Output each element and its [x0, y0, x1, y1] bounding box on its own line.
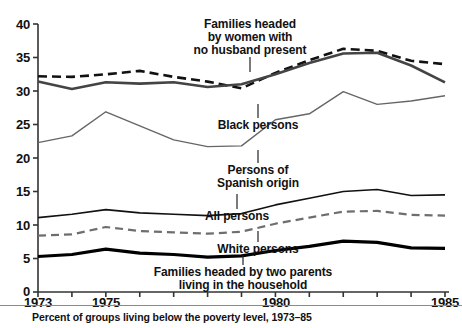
annotation-white-persons: White persons — [198, 243, 318, 256]
x-tick-label-1973: 1973 — [16, 296, 60, 309]
annotation-all-persons: All persons — [180, 210, 294, 223]
y-tick-label-20: 20 — [4, 152, 30, 165]
series-lines — [38, 49, 445, 257]
y-tick-label-15: 15 — [4, 185, 30, 198]
y-tick-label-25: 25 — [4, 118, 30, 131]
x-tick-label-1980: 1980 — [254, 296, 298, 309]
annotation-black-persons: Black persons — [198, 119, 318, 132]
caption-divider — [0, 305, 462, 306]
annotation-women-no-husband: Families headed by women with no husband… — [180, 18, 320, 57]
poverty-line-chart-figure: 40 35 30 25 20 15 10 5 0 1973 1975 1980 … — [0, 0, 462, 328]
y-tick-label-40: 40 — [4, 18, 30, 31]
y-tick-label-30: 30 — [4, 85, 30, 98]
x-tick-label-1985: 1985 — [423, 296, 462, 309]
chart-caption: Percent of groups living below the pover… — [32, 311, 312, 323]
y-tick-label-35: 35 — [4, 51, 30, 64]
annotation-two-parents: Families headed by two parents living in… — [133, 266, 353, 292]
x-tick-label-1975: 1975 — [84, 296, 128, 309]
y-tick-label-5: 5 — [4, 252, 30, 265]
series-line-1 — [38, 53, 445, 89]
y-tick-label-10: 10 — [4, 219, 30, 232]
annotation-spanish-origin: Persons of Spanish origin — [198, 164, 318, 190]
